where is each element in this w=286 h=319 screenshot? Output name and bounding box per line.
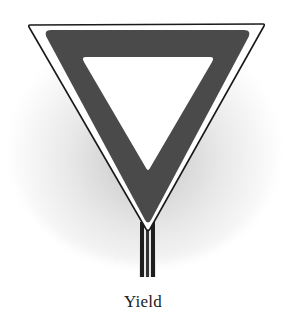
- yield-sign-figure: Yield: [0, 0, 286, 319]
- yield-sign-icon: [0, 0, 286, 319]
- sign-caption: Yield: [0, 292, 286, 312]
